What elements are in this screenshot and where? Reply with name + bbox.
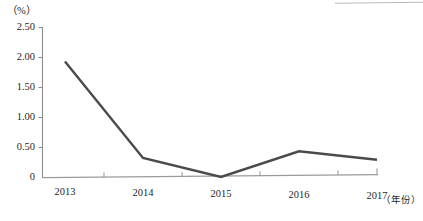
- x-tick-label-2014: 2014: [118, 187, 168, 198]
- x-tick-label-2013: 2013: [40, 186, 90, 197]
- y-tick-label-1-00: 1.00: [0, 111, 35, 122]
- x-tick-label-2016: 2016: [274, 189, 324, 200]
- line-chart: （%） 2.50 2.00 1.50 1.00 0.50 0 2013 2014…: [0, 0, 423, 221]
- y-tick-label-2-00: 2.00: [0, 51, 35, 62]
- y-tick-label-0: 0: [0, 171, 35, 182]
- y-tick-label-2-50: 2.50: [0, 21, 35, 32]
- y-axis-unit-label: （%）: [7, 2, 36, 17]
- data-series-line: [65, 62, 377, 177]
- x-axis-name-label: （年份）: [381, 192, 421, 206]
- y-tick-label-0-50: 0.50: [0, 141, 35, 152]
- page-rule-top: [335, 2, 423, 3]
- y-axis-ticks: [39, 28, 43, 148]
- x-tick-label-2015: 2015: [196, 188, 246, 199]
- y-tick-label-1-50: 1.50: [0, 81, 35, 92]
